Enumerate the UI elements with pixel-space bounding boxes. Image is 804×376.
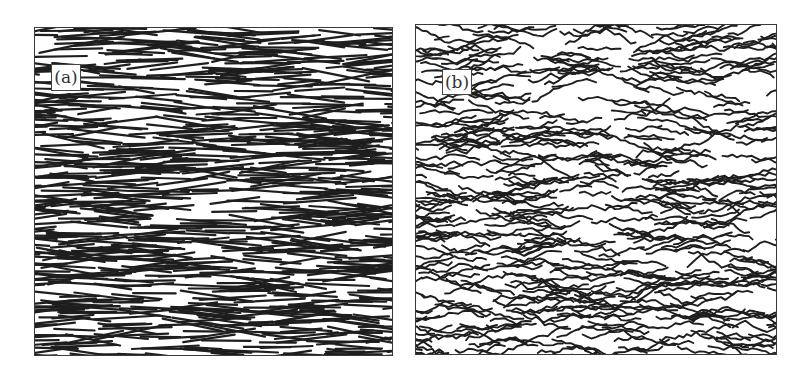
fiber-network-straight [35, 28, 393, 356]
panel-label-a: (a) [51, 64, 81, 91]
panel-a-straight-fibers: (a) [34, 27, 393, 356]
panel-label-b: (b) [442, 69, 472, 95]
panel-b-wavy-fibers: (b) [415, 24, 777, 355]
